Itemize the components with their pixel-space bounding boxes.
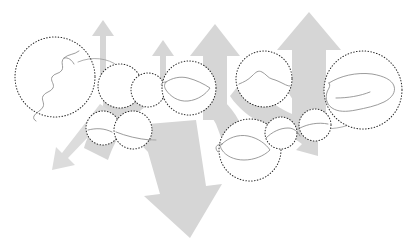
node-region-ridge-center-right[interactable] xyxy=(236,51,292,107)
diagram-svg xyxy=(0,0,415,245)
node-region-island-right[interactable] xyxy=(324,51,402,129)
diagram-canvas xyxy=(0,0,415,245)
node-region-blob-center-left[interactable] xyxy=(161,61,216,115)
node-region-coastline-large-left[interactable] xyxy=(15,37,95,121)
node-region-small-lower-d[interactable] xyxy=(299,109,331,141)
node-region-small-lower-b[interactable] xyxy=(114,111,152,149)
node-region-small-upper-b[interactable] xyxy=(131,73,165,107)
